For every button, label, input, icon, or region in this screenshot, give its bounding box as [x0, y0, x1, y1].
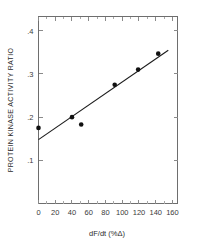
- x-tick-label: 100: [116, 208, 129, 217]
- fit-line: [39, 50, 169, 139]
- x-axis-tick-labels: 020406080100120140160: [36, 208, 178, 217]
- y-axis-title: PROTEIN KINASE ACTIVITY RATIO: [7, 47, 14, 172]
- data-point: [70, 115, 75, 120]
- scatter-plot: 020406080100120140160 .1.2.3.4 dF/dt (%Δ…: [0, 0, 205, 244]
- data-point: [136, 67, 141, 72]
- y-tick-label: .3: [27, 70, 33, 79]
- y-tick-label: .2: [27, 113, 33, 122]
- x-axis-minor-ticks: [47, 17, 164, 204]
- x-tick-label: 60: [85, 208, 93, 217]
- x-tick-label: 40: [68, 208, 76, 217]
- y-tick-label: .4: [27, 27, 33, 36]
- regression-line: [39, 50, 169, 139]
- x-tick-label: 120: [133, 208, 146, 217]
- y-tick-label: .1: [27, 156, 33, 165]
- data-points: [36, 51, 160, 130]
- y-axis-tick-labels: .1.2.3.4: [27, 27, 33, 166]
- plot-frame: [39, 17, 178, 204]
- x-axis-title: dF/dt (%Δ): [89, 229, 125, 238]
- chart-figure: 020406080100120140160 .1.2.3.4 dF/dt (%Δ…: [0, 0, 205, 244]
- x-tick-label: 80: [101, 208, 109, 217]
- data-point: [79, 122, 84, 127]
- data-point: [112, 82, 117, 87]
- data-point: [156, 51, 161, 56]
- x-axis-major-ticks: [39, 17, 173, 204]
- y-axis-major-ticks: [39, 31, 178, 161]
- x-tick-label: 0: [36, 208, 40, 217]
- x-tick-label: 160: [166, 208, 179, 217]
- x-tick-label: 140: [149, 208, 162, 217]
- x-tick-label: 20: [51, 208, 59, 217]
- data-point: [36, 126, 41, 131]
